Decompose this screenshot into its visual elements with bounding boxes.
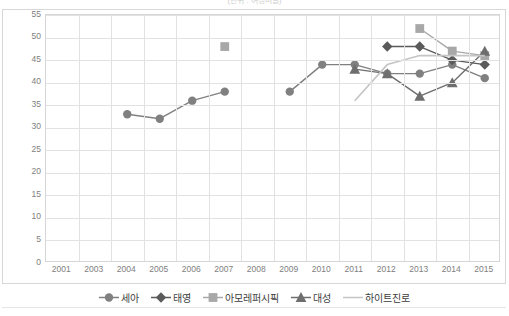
- x-tick-label: 2003: [78, 264, 111, 275]
- legend-label: 세아: [121, 290, 139, 305]
- data-point: [318, 60, 326, 68]
- data-point: [220, 42, 229, 51]
- x-tick-label: 2014: [435, 264, 468, 275]
- x-tick-label: 2010: [305, 264, 338, 275]
- data-point: [415, 41, 425, 51]
- series-아모레퍼시픽: [220, 24, 489, 60]
- legend-marker-square-icon: [203, 292, 223, 303]
- gridline-vertical: [111, 15, 112, 261]
- gridline-vertical: [469, 15, 470, 261]
- gridline-vertical: [274, 15, 275, 261]
- data-point: [123, 110, 131, 118]
- data-point: [156, 115, 164, 123]
- legend-label: 태영: [173, 290, 191, 305]
- y-tick-label: 0: [1, 258, 41, 267]
- gridline-horizontal: [46, 218, 499, 219]
- data-point: [415, 24, 424, 33]
- y-tick-label: 25: [1, 145, 41, 154]
- gridline-vertical: [241, 15, 242, 261]
- legend-label: 아모레퍼시픽: [225, 290, 279, 305]
- data-point: [416, 69, 424, 77]
- x-tick-label: 2004: [110, 264, 143, 275]
- gridline-horizontal: [46, 83, 499, 84]
- x-tick-label: 2001: [45, 264, 78, 275]
- legend-marker-none-icon: [343, 292, 363, 303]
- data-point: [188, 96, 196, 104]
- y-tick-label: 40: [1, 77, 41, 86]
- x-tick-label: 2013: [403, 264, 436, 275]
- gridline-horizontal: [46, 240, 499, 241]
- gridline-vertical: [371, 15, 372, 261]
- legend-label: 대성: [313, 290, 331, 305]
- data-point: [479, 46, 490, 56]
- data-point: [448, 47, 457, 56]
- gridline-vertical: [404, 15, 405, 261]
- gridline-horizontal: [46, 128, 499, 129]
- plot-area: [45, 14, 500, 262]
- legend-marker-circle-icon: [99, 292, 119, 303]
- legend-label: 하이트진로: [365, 290, 410, 305]
- x-tick-label: 2005: [143, 264, 176, 275]
- gridline-horizontal: [46, 150, 499, 151]
- data-point: [481, 74, 489, 82]
- y-tick-label: 35: [1, 100, 41, 109]
- bottom-divider: [2, 307, 506, 308]
- chart-title: (단위 : 여성비율): [0, 0, 509, 7]
- y-tick-label: 5: [1, 235, 41, 244]
- legend-item-태영[interactable]: 태영: [151, 290, 191, 305]
- y-tick-label: 45: [1, 55, 41, 64]
- chart-legend: 세아태영아모레퍼시픽대성하이트진로: [2, 288, 506, 306]
- gridline-vertical: [176, 15, 177, 261]
- gridline-vertical: [79, 15, 80, 261]
- gridline-vertical: [209, 15, 210, 261]
- legend-item-아모레퍼시픽[interactable]: 아모레퍼시픽: [203, 290, 279, 305]
- legend-item-하이트진로[interactable]: 하이트진로: [343, 290, 410, 305]
- chart-container: (단위 : 여성비율) 0510152025303540455055 20012…: [0, 0, 509, 316]
- legend-marker-triangle-icon: [291, 292, 311, 303]
- legend-item-세아[interactable]: 세아: [99, 290, 139, 305]
- gridline-horizontal: [46, 38, 499, 39]
- x-tick-label: 2015: [468, 264, 501, 275]
- gridline-vertical: [144, 15, 145, 261]
- y-tick-label: 30: [1, 122, 41, 131]
- data-point: [414, 91, 425, 101]
- gridline-horizontal: [46, 173, 499, 174]
- y-axis: 0510152025303540455055: [0, 14, 41, 262]
- x-axis: 2001200320042005200620072008200920102011…: [45, 264, 500, 278]
- y-tick-label: 50: [1, 32, 41, 41]
- x-tick-label: 2011: [338, 264, 371, 275]
- gridline-horizontal: [46, 60, 499, 61]
- data-point: [286, 87, 294, 95]
- x-tick-label: 2007: [208, 264, 241, 275]
- gridline-horizontal: [46, 15, 499, 16]
- gridline-vertical: [306, 15, 307, 261]
- x-tick-label: 2009: [273, 264, 306, 275]
- x-tick-label: 2006: [175, 264, 208, 275]
- y-tick-label: 10: [1, 212, 41, 221]
- gridline-vertical: [436, 15, 437, 261]
- gridline-horizontal: [46, 105, 499, 106]
- x-tick-label: 2012: [370, 264, 403, 275]
- gridline-vertical: [339, 15, 340, 261]
- y-tick-label: 55: [1, 10, 41, 19]
- x-tick-label: 2008: [240, 264, 273, 275]
- data-point: [221, 87, 229, 95]
- y-tick-label: 20: [1, 167, 41, 176]
- data-point: [382, 41, 392, 51]
- y-tick-label: 15: [1, 190, 41, 199]
- gridline-horizontal: [46, 195, 499, 196]
- legend-item-대성[interactable]: 대성: [291, 290, 331, 305]
- legend-marker-diamond-icon: [151, 292, 171, 303]
